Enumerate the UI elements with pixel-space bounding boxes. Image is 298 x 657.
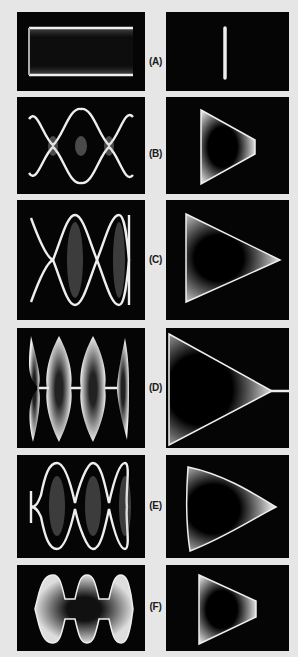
panel-b-waveform xyxy=(17,97,145,194)
row-label-a: (A) xyxy=(145,56,166,68)
rectangular-envelope-trace xyxy=(17,12,145,91)
row-label-c: (C) xyxy=(145,254,166,266)
triangle-trace xyxy=(166,200,289,320)
panel-e-pattern xyxy=(166,455,289,558)
row-label-f: (F) xyxy=(145,601,166,613)
panel-d-pattern xyxy=(166,328,289,448)
modulated-wave-trace xyxy=(17,97,145,194)
panel-c-waveform xyxy=(17,200,145,320)
distorted-modulation-trace xyxy=(17,455,145,558)
overmodulation-trace xyxy=(17,328,145,448)
clipped-modulation-trace xyxy=(17,565,145,651)
panel-d-waveform xyxy=(17,328,145,448)
triangle-with-tail-trace xyxy=(166,328,289,448)
panel-f-pattern xyxy=(166,565,289,651)
trapezoid-trace xyxy=(166,97,289,194)
row-label-d: (D) xyxy=(145,382,166,394)
row-label-e: (E) xyxy=(145,500,166,512)
panel-a-waveform xyxy=(17,12,145,91)
panel-e-waveform xyxy=(17,455,145,558)
panel-f-waveform xyxy=(17,565,145,651)
full-modulation-trace xyxy=(17,200,145,320)
panel-b-pattern xyxy=(166,97,289,194)
clipped-trapezoid-trace xyxy=(166,565,289,651)
curved-triangle-trace xyxy=(166,455,289,558)
panel-a-pattern xyxy=(166,12,289,91)
panel-c-pattern xyxy=(166,200,289,320)
vertical-line-trace xyxy=(166,12,289,91)
row-label-b: (B) xyxy=(145,148,166,160)
